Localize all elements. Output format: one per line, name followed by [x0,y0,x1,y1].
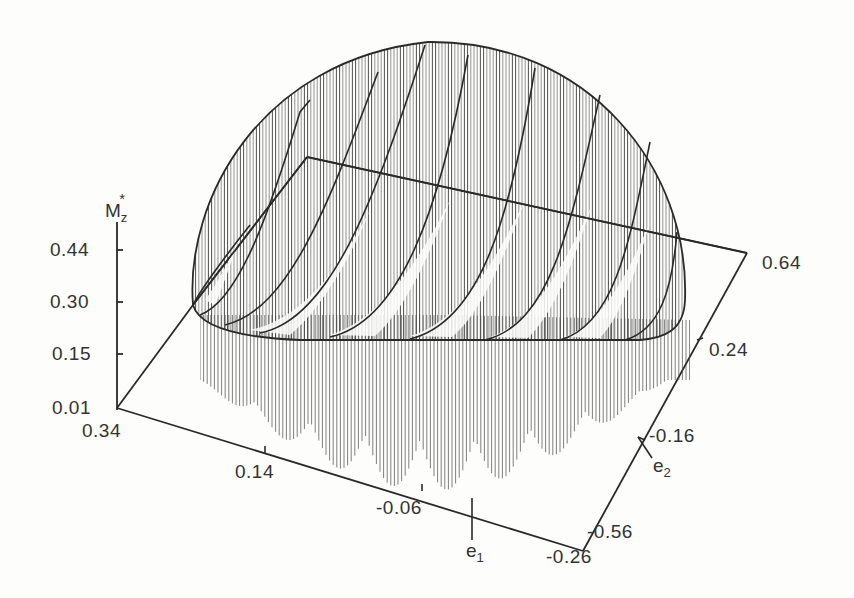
z-axis [117,222,123,410]
e2-tick-0.64: 0.64 [762,252,801,274]
z-axis-title-sub: z [121,210,128,225]
e1-tick-neg0.06: -0.06 [376,497,422,519]
e2-axis-title-main: e [653,455,664,476]
z-axis-title-sup: * [119,190,125,207]
z-axis-title: Mz* [105,196,133,225]
z-tick-0.30: 0.30 [50,291,89,313]
surface-plot [0,0,854,598]
e1-tick-neg0.26: -0.26 [546,546,592,568]
e1-axis-title-sub: 1 [477,550,484,565]
e1-axis-title: e1 [466,540,484,565]
e1-tick-0.14: 0.14 [235,461,274,483]
e2-tick-neg0.16: -0.16 [649,425,695,447]
z-tick-0.44: 0.44 [50,239,89,261]
back-edge [307,157,747,253]
e2-tick-0.24: 0.24 [709,339,748,361]
z-tick-0.01: 0.01 [52,397,91,419]
e2-axis-title: e2 [653,455,671,480]
e2-axis-title-sub: 2 [664,465,671,480]
e1-axis-title-main: e [466,540,477,561]
z-tick-0.15: 0.15 [52,343,91,365]
e1-tick-0.34: 0.34 [82,420,121,442]
e2-tick-neg0.56: -0.56 [587,521,633,543]
